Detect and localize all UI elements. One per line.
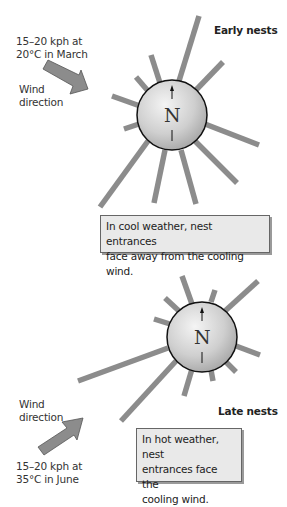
late-compass-label: N — [194, 327, 210, 347]
late-wind-speed: 15–20 kph at 35°C in June — [16, 460, 82, 486]
early-compass-label: N — [164, 105, 180, 125]
late-caption-line1: In hot weather, nest — [142, 432, 236, 462]
early-wind-speed-line1: 15–20 kph at — [16, 35, 88, 48]
late-wind-speed-line2: 35°C in June — [16, 473, 82, 486]
early-caption-line2: face away from the cooling wind. — [106, 249, 264, 279]
early-caption-line1: In cool weather, nest entrances — [106, 219, 264, 249]
late-wind-label: Wind direction — [19, 398, 63, 424]
late-wind-label-line2: direction — [19, 411, 63, 424]
late-wind-label-line1: Wind — [19, 398, 63, 411]
early-nests-title: Early nests — [214, 24, 277, 37]
early-wind-label-line1: Wind — [19, 83, 63, 96]
early-caption-box: In cool weather, nest entrances face awa… — [100, 215, 270, 253]
late-caption-line2: entrances face the — [142, 462, 236, 492]
early-wind-speed: 15–20 kph at 20°C in March — [16, 35, 88, 61]
late-nests-title: Late nests — [218, 405, 278, 418]
late-caption-box: In hot weather, nest entrances face the … — [136, 428, 242, 482]
early-wind-label-line2: direction — [19, 96, 63, 109]
early-wind-label: Wind direction — [19, 83, 63, 109]
late-wind-speed-line1: 15–20 kph at — [16, 460, 82, 473]
late-caption-line3: cooling wind. — [142, 492, 236, 507]
early-wind-speed-line2: 20°C in March — [16, 48, 88, 61]
